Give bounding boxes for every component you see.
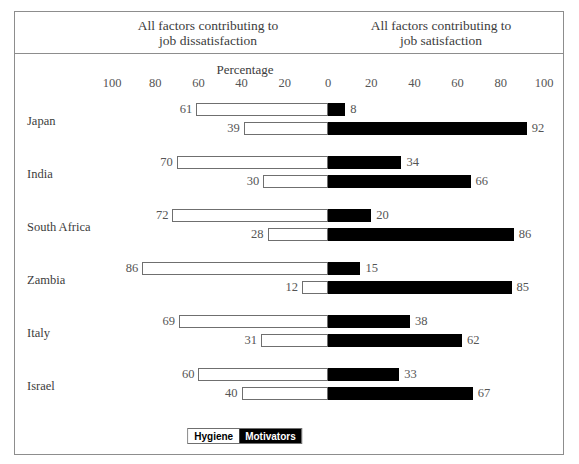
bar-satisfaction — [328, 209, 371, 222]
bar-satisfaction — [328, 315, 410, 328]
bar-line: 3992 — [15, 122, 563, 135]
bar-value-left: 61 — [170, 102, 192, 117]
plot-area: Percentage 10080604020020406080100 Japan… — [15, 54, 563, 454]
bar-group: Zambia86151285 — [15, 259, 563, 305]
header-satisfaction-line2: job satisfaction — [331, 33, 551, 48]
bar-satisfaction — [328, 262, 360, 275]
bar-value-left: 30 — [237, 174, 259, 189]
bar-dissatisfaction — [242, 387, 328, 400]
bar-satisfaction — [328, 281, 512, 294]
bar-value-right: 62 — [467, 333, 480, 348]
bar-group: India70343066 — [15, 153, 563, 199]
bar-dissatisfaction — [261, 334, 328, 347]
bar-value-right: 67 — [478, 386, 491, 401]
bar-value-left: 12 — [276, 280, 298, 295]
bar-dissatisfaction — [142, 262, 328, 275]
bar-value-left: 39 — [218, 121, 240, 136]
bar-value-right: 34 — [406, 155, 419, 170]
header-satisfaction: All factors contributing to job satisfac… — [331, 18, 551, 48]
bar-value-right: 86 — [519, 227, 532, 242]
legend: Hygiene Motivators — [15, 428, 563, 444]
bar-satisfaction — [328, 228, 514, 241]
bar-group: Israel60334067 — [15, 365, 563, 411]
bar-line: 6938 — [15, 315, 563, 328]
bar-satisfaction — [328, 334, 462, 347]
bar-satisfaction — [328, 368, 399, 381]
bar-line: 3162 — [15, 334, 563, 347]
bar-value-right: 92 — [532, 121, 545, 136]
bar-value-right: 33 — [404, 367, 417, 382]
bar-line: 7034 — [15, 156, 563, 169]
bar-value-right: 8 — [350, 102, 356, 117]
bar-value-right: 66 — [476, 174, 489, 189]
bar-line: 2886 — [15, 228, 563, 241]
bar-group: Italy69383162 — [15, 312, 563, 358]
bar-dissatisfaction — [302, 281, 328, 294]
header-dissatisfaction-line2: job dissatisfaction — [98, 33, 318, 48]
bar-satisfaction — [328, 156, 401, 169]
header-satisfaction-line1: All factors contributing to — [331, 18, 551, 33]
bar-dissatisfaction — [196, 103, 328, 116]
bar-dissatisfaction — [268, 228, 328, 241]
header-dissatisfaction: All factors contributing to job dissatis… — [98, 18, 318, 48]
bar-line: 7220 — [15, 209, 563, 222]
bar-satisfaction — [328, 175, 471, 188]
bar-group: South Africa72202886 — [15, 206, 563, 252]
bar-dissatisfaction — [172, 209, 328, 222]
chart-frame: All factors contributing to job dissatis… — [14, 11, 564, 455]
bar-value-right: 15 — [365, 261, 378, 276]
bar-value-right: 38 — [415, 314, 428, 329]
legend-item-motivators: Motivators — [239, 429, 302, 443]
header-dissatisfaction-line1: All factors contributing to — [98, 18, 318, 33]
bar-line: 1285 — [15, 281, 563, 294]
bar-value-left: 40 — [216, 386, 238, 401]
bar-group: Japan6183992 — [15, 100, 563, 146]
header-band: All factors contributing to job dissatis… — [15, 12, 563, 54]
bar-value-right: 85 — [517, 280, 530, 295]
bar-dissatisfaction — [244, 122, 328, 135]
bar-dissatisfaction — [198, 368, 328, 381]
bar-value-left: 70 — [151, 155, 173, 170]
legend-box: Hygiene Motivators — [187, 428, 302, 444]
bar-line: 6033 — [15, 368, 563, 381]
bar-satisfaction — [328, 387, 473, 400]
legend-item-hygiene: Hygiene — [188, 429, 239, 443]
bar-value-left: 60 — [172, 367, 194, 382]
bar-value-left: 31 — [235, 333, 257, 348]
bar-satisfaction — [328, 122, 527, 135]
bar-dissatisfaction — [177, 156, 328, 169]
bar-satisfaction — [328, 103, 345, 116]
bar-value-right: 20 — [376, 208, 389, 223]
bar-line: 8615 — [15, 262, 563, 275]
bar-line: 618 — [15, 103, 563, 116]
bar-value-left: 69 — [153, 314, 175, 329]
bar-line: 4067 — [15, 387, 563, 400]
bar-value-left: 28 — [242, 227, 264, 242]
bar-dissatisfaction — [179, 315, 328, 328]
bar-value-left: 86 — [116, 261, 138, 276]
bar-value-left: 72 — [146, 208, 168, 223]
bar-line: 3066 — [15, 175, 563, 188]
bar-dissatisfaction — [263, 175, 328, 188]
bar-rows: Japan6183992India70343066South Africa722… — [15, 54, 563, 454]
